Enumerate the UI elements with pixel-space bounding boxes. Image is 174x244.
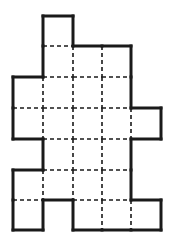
grid-cell [13,108,43,139]
grid-cell [13,200,43,230]
grid-cell [43,77,73,108]
grid-cell [43,170,73,200]
grid-cell [13,77,43,108]
grid-cell [73,200,102,230]
grid-cell [73,170,102,200]
grid-cell [43,108,73,139]
grid-cell [131,108,161,139]
grid-cell [102,46,131,77]
grid-cells [13,16,161,230]
grid-cell [43,139,73,170]
grid-cell [43,46,73,77]
grid-cell [131,200,161,230]
grid-cell [102,170,131,200]
grid-shape-figure [0,0,174,244]
grid-cell [102,108,131,139]
grid-cell [73,77,102,108]
grid-cell [102,77,131,108]
grid-cell [102,200,131,230]
grid-cell [73,46,102,77]
grid-cell [102,139,131,170]
grid-cell [73,139,102,170]
grid-cell [13,170,43,200]
grid-cell [43,16,73,46]
grid-cell [73,108,102,139]
